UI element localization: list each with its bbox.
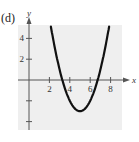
x-tick-label: 2 — [47, 84, 52, 94]
y-axis-label: y — [26, 8, 31, 18]
x-tick-label: 8 — [108, 84, 113, 94]
parabola-chart: xy246842 — [0, 0, 139, 142]
x-tick-label: 4 — [68, 84, 73, 94]
y-tick-label: 4 — [20, 33, 25, 43]
x-axis-arrow-icon — [123, 78, 130, 83]
y-axis-arrow-icon — [27, 17, 32, 24]
x-axis-label: x — [131, 75, 136, 85]
x-tick-label: 6 — [88, 84, 93, 94]
y-tick-label: 2 — [20, 54, 25, 64]
